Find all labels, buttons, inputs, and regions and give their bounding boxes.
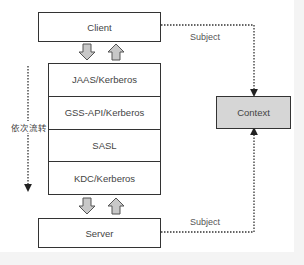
client-label: Client (87, 22, 111, 33)
layer-label: JAAS/Kerberos (72, 74, 137, 85)
protocol-stack: JAAS/Kerberos GSS-API/Kerberos SASL KDC/… (48, 63, 161, 195)
diagram-canvas: Client JAAS/Kerberos GSS-API/Kerberos SA… (0, 0, 294, 252)
subject-label-bottom: Subject (190, 217, 220, 227)
layer-label: SASL (92, 140, 116, 151)
up-arrow-icon (108, 198, 124, 214)
stack-layer-gss-api: GSS-API/Kerberos (49, 97, 160, 130)
client-node: Client (38, 12, 161, 42)
subject-label-top: Subject (190, 32, 220, 42)
up-arrow-icon (108, 44, 124, 60)
context-label: Context (237, 107, 270, 118)
stack-layer-sasl: SASL (49, 130, 160, 163)
layer-label: KDC/Kerberos (74, 173, 135, 184)
down-arrow-icon (79, 198, 95, 214)
layer-label: GSS-API/Kerberos (65, 107, 145, 118)
stack-layer-kdc: KDC/Kerberos (49, 162, 160, 194)
server-node: Server (38, 218, 161, 248)
stack-layer-jaas: JAAS/Kerberos (49, 64, 160, 97)
flow-label: 依次流转 (10, 121, 48, 133)
server-label: Server (86, 228, 114, 239)
down-arrow-icon (79, 44, 95, 60)
context-node: Context (216, 96, 291, 129)
